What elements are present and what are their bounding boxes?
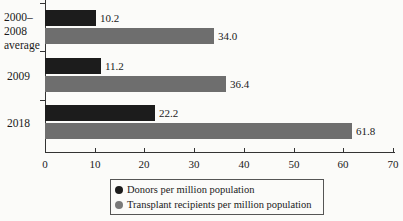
category-label-2009: 2009 — [7, 69, 30, 83]
x-tick-label: 20 — [132, 158, 156, 170]
donors-bar — [45, 105, 155, 121]
x-tick — [95, 148, 96, 153]
donors-bar — [45, 58, 101, 74]
x-tick-label: 0 — [33, 158, 57, 170]
x-tick-label: 50 — [282, 158, 306, 170]
y-tick — [40, 51, 45, 52]
category-label-line: average — [4, 38, 40, 52]
legend-item-recipients: Transplant recipients per million popula… — [115, 198, 312, 211]
category-label-line: 2000– — [4, 10, 40, 24]
legend-swatch-dark-icon — [115, 186, 123, 194]
category-label-line: 2008 — [4, 24, 40, 38]
value-label: 10.2 — [100, 11, 119, 25]
legend-label: Transplant recipients per million popula… — [127, 199, 312, 210]
x-tick-label: 60 — [331, 158, 355, 170]
value-label: 36.4 — [230, 77, 249, 91]
value-label: 34.0 — [218, 29, 237, 43]
x-tick-label: 10 — [83, 158, 107, 170]
value-label: 61.8 — [356, 124, 375, 138]
y-tick — [40, 100, 45, 101]
category-label-line: 2018 — [7, 116, 30, 130]
donors-bar — [45, 10, 96, 26]
y-tick — [40, 3, 45, 4]
x-tick — [244, 148, 245, 153]
value-label: 22.2 — [159, 106, 178, 120]
recipients-bar — [45, 76, 226, 92]
legend: Donors per million population Transplant… — [110, 179, 324, 215]
x-tick — [45, 148, 46, 153]
x-tick — [194, 148, 195, 153]
x-tick — [393, 148, 394, 153]
x-tick — [343, 148, 344, 153]
value-label: 11.2 — [105, 59, 124, 73]
category-label-2000-2008: 2000– 2008 average — [4, 10, 40, 52]
category-label-2018: 2018 — [7, 116, 30, 130]
legend-swatch-gray-icon — [115, 201, 123, 209]
recipients-bar — [45, 28, 214, 44]
legend-label: Donors per million population — [127, 184, 254, 195]
x-tick — [144, 148, 145, 153]
x-tick-label: 70 — [381, 158, 403, 170]
x-tick-label: 30 — [182, 158, 206, 170]
legend-item-donors: Donors per million population — [115, 183, 254, 196]
x-tick — [294, 148, 295, 153]
recipients-bar — [45, 123, 352, 139]
x-tick-label: 40 — [232, 158, 256, 170]
category-label-line: 2009 — [7, 69, 30, 83]
